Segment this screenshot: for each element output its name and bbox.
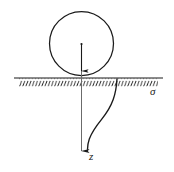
- sigma-stress-label: σ: [150, 86, 155, 97]
- stress-distribution-curve: [88, 79, 118, 149]
- figure-container: σ z: [0, 0, 174, 172]
- circle-center-dot: [80, 43, 82, 45]
- ground-hatching: [19, 79, 158, 87]
- z-depth-axis-label: z: [89, 151, 93, 162]
- diagram-canvas: [0, 0, 174, 172]
